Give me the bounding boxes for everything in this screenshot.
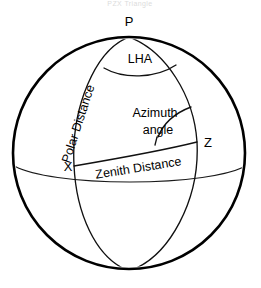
label-pole-p: P — [125, 14, 134, 29]
sphere-outline-circle — [13, 37, 245, 269]
label-zenith-z: Z — [204, 135, 212, 150]
label-zenith-distance: Zenith Distance — [94, 154, 182, 181]
azimuth-angle-tick — [155, 137, 157, 145]
pzx-triangle-diagram: PZX Triangle P Z X LHA Azimuth angle — [0, 0, 261, 288]
label-polar-distance: Polar Distance — [59, 83, 97, 165]
lha-arc — [104, 65, 176, 76]
label-lha: LHA — [128, 52, 153, 66]
label-azimuth-line1: Azimuth — [132, 106, 177, 120]
sphere-svg-canvas: PZX Triangle P Z X LHA Azimuth angle — [0, 0, 261, 288]
label-azimuth-line2: angle — [143, 123, 174, 137]
left-meridian-arc — [74, 37, 129, 271]
faint-title-text: PZX Triangle — [107, 0, 152, 8]
